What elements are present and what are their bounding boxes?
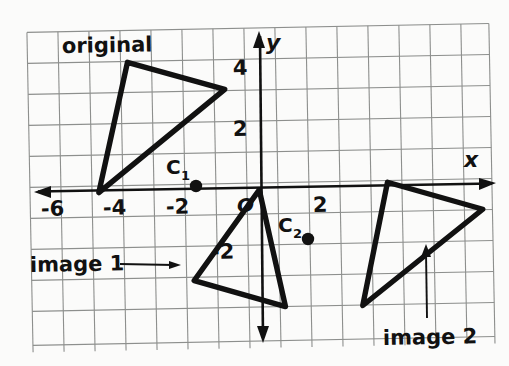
label-original: original — [62, 32, 153, 58]
center-point-c2 — [302, 233, 314, 245]
y-tick-label-minus2: -2 — [211, 240, 235, 264]
coordinate-plane-svg: original image 1 image 2 C 1 C 2 x y O -… — [0, 0, 509, 366]
x-tick-label-minus2: -2 — [166, 195, 190, 219]
label-center-2-letter: C — [278, 213, 293, 237]
y-tick-label-2: 2 — [233, 117, 248, 141]
y-tick-label-4: 4 — [233, 56, 248, 80]
x-tick-label-minus4: -4 — [103, 196, 127, 220]
label-center-1-letter: C — [166, 155, 181, 179]
x-tick-label-minus6: -6 — [41, 197, 65, 221]
label-image-1: image 1 — [30, 251, 125, 277]
label-x-axis-name: x — [463, 147, 479, 172]
center-point-c1 — [190, 180, 202, 192]
label-origin: O — [237, 193, 254, 217]
x-tick-label-2: 2 — [313, 193, 328, 217]
label-center-1-subscript: 1 — [181, 168, 190, 183]
label-y-axis-name: y — [266, 30, 282, 55]
label-center-2-subscript: 2 — [293, 226, 302, 241]
graph-figure: original image 1 image 2 C 1 C 2 x y O -… — [0, 0, 509, 366]
label-image-2: image 2 — [383, 324, 478, 350]
